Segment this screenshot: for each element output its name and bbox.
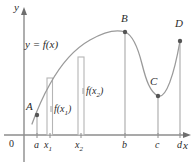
tick-label-b: b [122, 140, 127, 150]
x-axis-label: x [183, 140, 188, 151]
graph-canvas [0, 0, 194, 167]
function-graph-figure: y x 0 y = f(x) A B C D a x1 x2 b c d f(x… [0, 0, 194, 167]
tick-label-x2: x2 [75, 140, 83, 153]
axes-group [4, 7, 191, 162]
point-b-marker [123, 30, 127, 34]
rect-x1 [47, 78, 53, 135]
value-rectangles-group [47, 57, 84, 135]
point-a-marker [35, 113, 39, 117]
y-axis-arrow-icon [21, 7, 27, 15]
drop-lines-group [37, 32, 180, 135]
x-axis-arrow-icon [183, 132, 191, 138]
point-c-label: C [150, 76, 157, 87]
rect-x2 [78, 57, 84, 135]
tick-label-c: c [155, 140, 159, 150]
y-axis-label: y [14, 2, 19, 13]
value-label-fx1: f(x1) [54, 104, 71, 117]
point-d-marker [178, 39, 182, 43]
point-c-marker [156, 94, 160, 98]
point-d-label: D [175, 18, 183, 29]
value-label-fx2: f(x2) [86, 86, 103, 99]
tick-label-x1: x1 [44, 140, 52, 153]
tick-label-a: a [34, 140, 39, 150]
tick-label-d: d [177, 140, 182, 150]
point-a-label: A [26, 101, 33, 112]
point-b-label: B [121, 13, 128, 24]
origin-label: 0 [9, 139, 14, 149]
curve-equation-label: y = f(x) [25, 39, 58, 50]
